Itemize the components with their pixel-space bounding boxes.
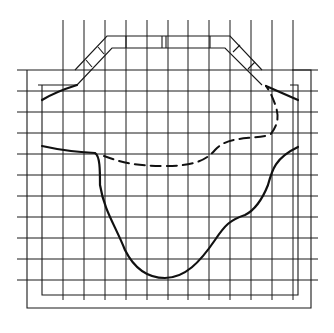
tick <box>98 47 104 54</box>
outer-frame <box>27 70 311 308</box>
upper-left-profile <box>42 85 77 100</box>
diagram-canvas <box>0 0 334 333</box>
tick <box>86 60 92 67</box>
grid-lines <box>17 20 318 300</box>
tick <box>233 45 240 52</box>
grid-diagram <box>0 0 334 333</box>
inner-frame <box>42 85 298 295</box>
